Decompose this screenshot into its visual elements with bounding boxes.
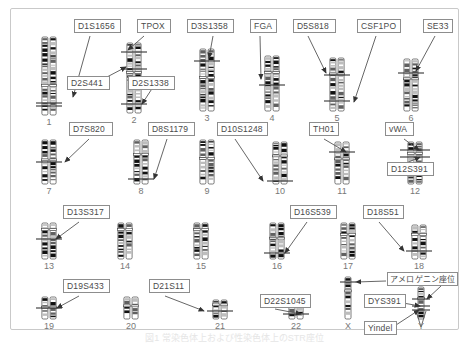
centromere xyxy=(335,158,342,160)
chromosome-band xyxy=(136,90,141,91)
chromosome-band xyxy=(273,161,278,163)
chromosome-band xyxy=(42,109,47,111)
centromere xyxy=(135,72,142,74)
chromosome-band xyxy=(209,170,214,173)
chromosome-band xyxy=(413,80,418,83)
chromosome-band xyxy=(136,107,141,110)
chromosome-band xyxy=(133,308,138,311)
chromosome-band xyxy=(118,224,123,228)
chromosome-band xyxy=(42,154,47,157)
chromosome-band xyxy=(134,171,139,172)
chromosome-band xyxy=(127,96,132,98)
chromosome-band xyxy=(42,95,47,97)
chromosome-number-13: 13 xyxy=(39,261,59,271)
chromosome-band xyxy=(339,61,344,64)
chromosome-band xyxy=(417,143,422,145)
locus-label-d22s1045: D22S1045 xyxy=(260,294,311,308)
chromosome-band xyxy=(51,100,56,102)
chromosome-band xyxy=(339,97,344,98)
chromosome-band xyxy=(42,224,47,226)
chromosome-band xyxy=(412,246,417,249)
chromosome-number-10: 10 xyxy=(270,186,290,196)
locus-label-dys391: DYS391 xyxy=(364,294,406,308)
chromosome-band xyxy=(274,94,279,97)
chromosome-band xyxy=(203,246,208,247)
centromere xyxy=(42,84,49,86)
chromosome-band xyxy=(270,240,275,242)
chromosome-band xyxy=(265,94,270,96)
chromosome-band xyxy=(51,236,56,238)
centromere xyxy=(270,237,277,239)
chromosome-band xyxy=(42,81,47,84)
chromosome-band xyxy=(200,170,205,172)
chromosome-band xyxy=(203,237,208,241)
chromosome-band xyxy=(413,74,418,76)
chromosome-band xyxy=(418,291,423,292)
locus-label-d7s820: D7S820 xyxy=(69,122,113,136)
chromosome-band xyxy=(51,147,56,149)
chromosome-band xyxy=(282,174,287,177)
centromere xyxy=(420,234,427,236)
chromosome-band xyxy=(339,59,344,60)
chromosome-band xyxy=(200,94,205,95)
chromosome-band xyxy=(339,85,344,87)
chromosome-band xyxy=(273,145,278,146)
chromosome-band xyxy=(265,68,270,70)
chromosome-band xyxy=(51,166,56,168)
chromosome-band xyxy=(344,143,349,144)
chromosome-band xyxy=(200,107,205,108)
centromere xyxy=(126,229,133,231)
chromosome-band xyxy=(412,242,417,244)
chromosome-band xyxy=(330,104,335,106)
chromosome-band xyxy=(270,224,275,226)
chromosome-band xyxy=(274,86,279,89)
chromosome-band xyxy=(42,151,47,154)
chromosome-band xyxy=(270,233,275,236)
chromosome-band xyxy=(339,105,344,109)
chromosome-band xyxy=(413,95,418,98)
chromosome-band xyxy=(200,177,205,180)
chromosome-band xyxy=(51,90,56,92)
chromosome-band xyxy=(127,249,132,250)
chromosome-band xyxy=(330,62,335,64)
chromosome-band xyxy=(42,92,47,95)
chromosome-band xyxy=(404,88,409,91)
chromosome-band xyxy=(118,235,123,238)
centromere xyxy=(127,72,134,74)
chromosome-band xyxy=(51,96,56,99)
chromosome-band xyxy=(341,253,346,256)
chromosome-band xyxy=(344,163,349,165)
chromosome-band xyxy=(209,100,214,103)
chromosome-band xyxy=(127,58,132,62)
chromosome-band xyxy=(350,247,355,250)
chromosome-band xyxy=(274,61,279,65)
chromosome-band xyxy=(412,231,417,233)
chromosome-band xyxy=(265,97,270,98)
chromosome-band xyxy=(279,240,284,244)
chromosome-band xyxy=(42,38,47,40)
chromosome-band xyxy=(51,77,56,79)
chromosome-band xyxy=(421,247,426,249)
chromosome-band xyxy=(42,166,47,169)
chromosome-band xyxy=(412,226,417,229)
chromosome-band xyxy=(265,87,270,90)
chromosome-band xyxy=(335,176,340,179)
chromosome-band xyxy=(265,105,270,108)
chromosome-band xyxy=(200,96,205,98)
chromosome-band xyxy=(134,145,139,147)
chromosome-band xyxy=(127,63,132,65)
chromosome-band xyxy=(42,302,47,303)
centromere xyxy=(345,290,352,292)
chromosome-band xyxy=(274,99,279,101)
chromosome-band xyxy=(118,240,123,241)
chromosome-band xyxy=(213,301,218,302)
centromere xyxy=(343,158,350,160)
chromosome-band xyxy=(200,153,205,156)
locus-label-d10s1248: D10S1248 xyxy=(217,122,268,136)
chromosome-band xyxy=(118,251,123,253)
chromosome-band xyxy=(339,99,344,101)
chromosome-band xyxy=(273,151,278,152)
chromosome-number-21: 21 xyxy=(210,321,230,331)
chromosome-band xyxy=(335,164,340,167)
chromosome-band xyxy=(143,167,148,170)
